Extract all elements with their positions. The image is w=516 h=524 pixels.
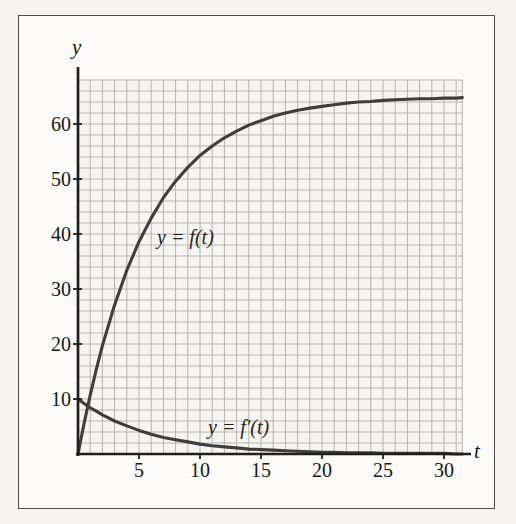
figure-page: y t y = f(t) y = f′(t) 51015202530102030… [0,0,516,524]
chart-canvas [0,0,516,524]
